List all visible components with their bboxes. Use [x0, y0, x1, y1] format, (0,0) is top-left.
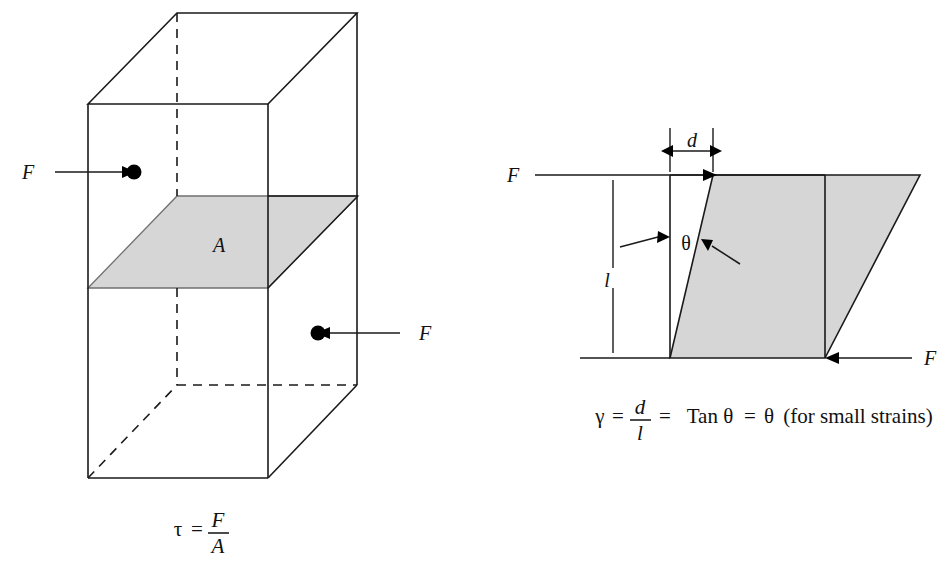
force-label-bottom: F [923, 347, 937, 369]
l-pointer-shaft [620, 237, 658, 247]
force-right-point-dot [311, 326, 326, 341]
tau-denominator: A [210, 534, 225, 558]
shear-strain-formula: γ = d l = Tan θ = θ (for small strains) [594, 395, 932, 445]
displacement-label-d: d [687, 129, 698, 151]
figure-root: A (dot) --> F F τ = F A [0, 0, 947, 574]
d-arrowhead-left [661, 145, 673, 157]
gamma-equals-1: = [612, 404, 624, 428]
height-label-l: l [604, 269, 610, 291]
shear-strain-parallelogram-group: F F d l θ [506, 128, 937, 445]
tau-equals-sign: = [191, 517, 203, 541]
tau-symbol: τ [174, 517, 182, 541]
block-hidden-bottom-left-slant [88, 385, 177, 478]
gamma-symbol: γ [594, 404, 604, 428]
gamma-denominator: l [637, 421, 643, 445]
gamma-equals-2: = [659, 404, 671, 428]
force-label-top: F [506, 164, 520, 186]
theta-term: θ [764, 404, 774, 428]
force-label-left: F [21, 161, 35, 183]
diagram-canvas: A (dot) --> F F τ = F A [0, 0, 947, 574]
small-strains-note: (for small strains) [783, 404, 932, 428]
block-bottom-right-slant [268, 385, 357, 478]
sheared-body-shaded [670, 175, 920, 358]
gamma-equals-3: = [744, 404, 756, 428]
l-pointer-arrowhead [657, 231, 670, 243]
tau-numerator: F [211, 508, 225, 532]
force-left-point-dot [127, 165, 142, 180]
tan-theta-term: Tan θ [687, 404, 734, 428]
shear-stress-formula: τ = F A [174, 508, 229, 558]
area-label: A [211, 234, 226, 256]
force-label-right: F [418, 322, 432, 344]
gamma-numerator: d [635, 395, 646, 419]
angle-label-theta: θ [681, 232, 691, 254]
d-arrowhead-right [710, 145, 722, 157]
shear-stress-block-group: A (dot) --> F F τ = F A [21, 13, 432, 558]
block-top-face [88, 13, 357, 104]
